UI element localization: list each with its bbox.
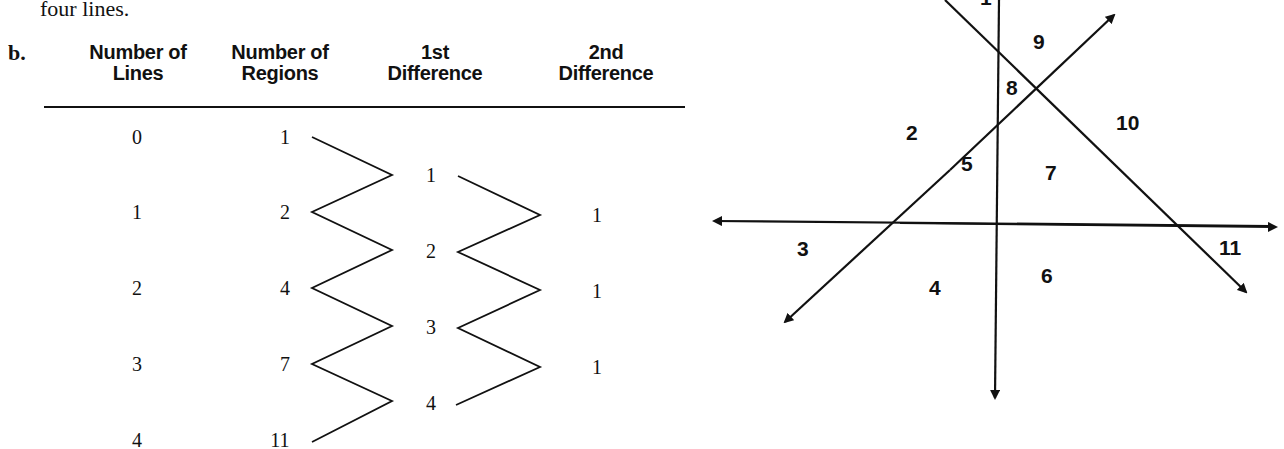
- diagonal-up-line: [785, 170, 950, 322]
- vertical-line: [995, 0, 999, 398]
- region-label-2: 2: [906, 121, 918, 145]
- region-label-3: 3: [797, 237, 809, 261]
- region-label-4: 4: [929, 276, 941, 300]
- region-label-11: 11: [1219, 236, 1241, 260]
- region-label-1: 1: [980, 0, 992, 10]
- region-label-5: 5: [961, 152, 973, 176]
- region-label-8: 8: [1006, 76, 1018, 100]
- four-lines-diagram: [0, 0, 1284, 449]
- diagonal-down-line: [945, 0, 1246, 292]
- region-label-10: 10: [1116, 111, 1139, 135]
- region-label-6: 6: [1041, 264, 1053, 288]
- region-label-7: 7: [1045, 161, 1057, 185]
- region-label-9: 9: [1033, 30, 1045, 54]
